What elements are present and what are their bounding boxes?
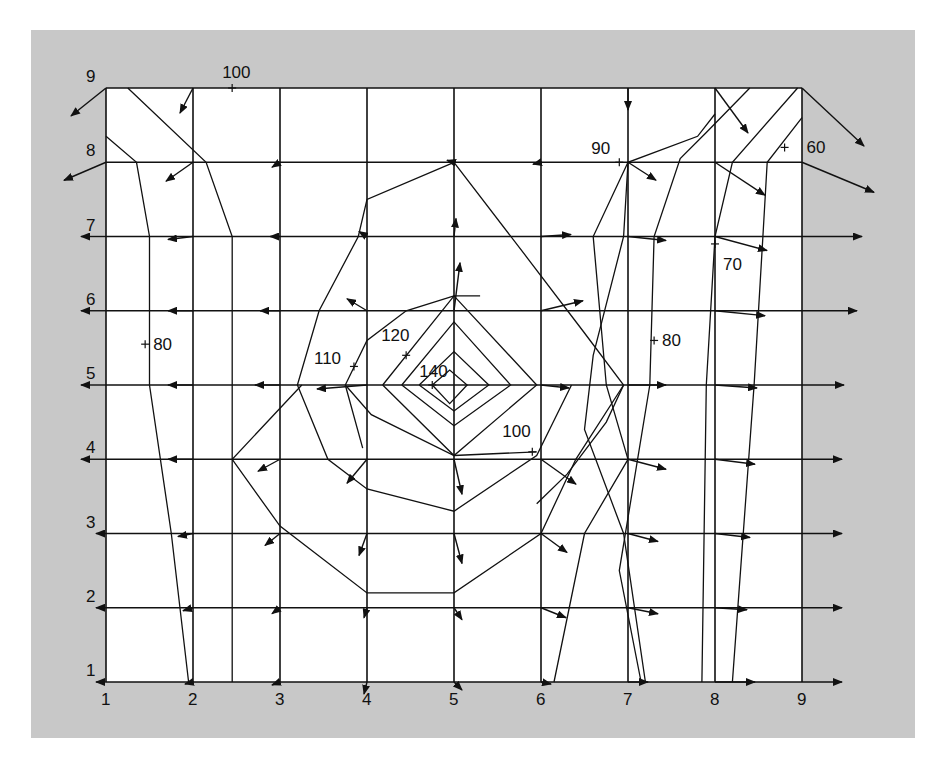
row-label: 1 (86, 661, 95, 680)
contour-value-label: 100 (222, 63, 250, 82)
row-label: 4 (86, 438, 95, 457)
column-label: 3 (275, 690, 284, 709)
row-label: 3 (86, 513, 95, 532)
row-label: 8 (86, 141, 95, 160)
contour-value-label: 100 (502, 422, 530, 441)
column-label: 4 (362, 690, 371, 709)
gradient-arrow (71, 88, 106, 116)
column-label: 5 (449, 690, 458, 709)
contour-value-label: 90 (591, 139, 610, 158)
contour-diagram: 123456789123456789 100906070808011012014… (0, 0, 946, 762)
column-label: 7 (623, 690, 632, 709)
column-label: 6 (536, 690, 545, 709)
contour-value-label: 80 (153, 335, 172, 354)
gradient-arrow (454, 682, 462, 690)
row-label: 9 (86, 67, 95, 86)
gradient-arrow (64, 162, 106, 180)
contour-value-label: 120 (381, 326, 409, 345)
gradient-arrow (802, 162, 874, 192)
row-label: 6 (86, 290, 95, 309)
contour-value-label: 60 (807, 138, 826, 157)
row-label: 2 (86, 587, 95, 606)
column-label: 9 (797, 690, 806, 709)
contour-value-label: 140 (419, 362, 447, 381)
row-label: 7 (86, 216, 95, 235)
column-label: 1 (101, 690, 110, 709)
contour-value-label: 110 (314, 349, 341, 368)
row-label: 5 (86, 364, 95, 383)
column-label: 2 (188, 690, 197, 709)
contour-value-label: 80 (662, 331, 681, 350)
column-label: 8 (710, 690, 719, 709)
gradient-arrow (802, 88, 864, 146)
contour-value-label: 70 (723, 255, 742, 274)
